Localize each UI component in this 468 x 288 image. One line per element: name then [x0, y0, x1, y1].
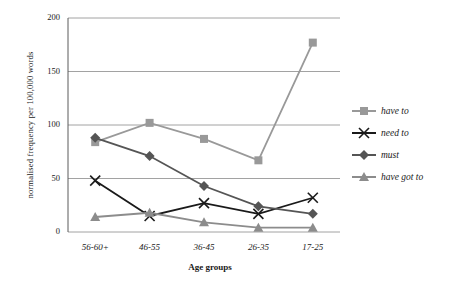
data-point: [145, 151, 155, 161]
data-point: [309, 39, 317, 47]
data-point: [199, 181, 209, 191]
data-point: [308, 193, 318, 203]
legend-label: must: [381, 150, 399, 160]
legend-marker-cross-icon: [352, 127, 376, 139]
data-point: [359, 150, 369, 160]
legend-marker-triangle-icon: [352, 171, 376, 183]
legend-label: have to: [381, 106, 409, 116]
legend-item: need to: [352, 122, 468, 144]
legend-label: need to: [381, 128, 409, 138]
data-point: [254, 156, 262, 164]
legend-item: must: [352, 144, 468, 166]
legend: have toneed tomusthave got to: [352, 100, 468, 188]
legend-item: have to: [352, 100, 468, 122]
data-point: [200, 135, 208, 143]
legend-marker-square-icon: [352, 105, 376, 117]
y-tick-label: 0: [34, 226, 60, 236]
legend-item: have got to: [352, 166, 468, 188]
data-point: [360, 107, 368, 115]
y-tick-label: 50: [34, 173, 60, 183]
data-point: [359, 128, 369, 138]
y-tick-label: 150: [34, 66, 60, 76]
legend-marker-diamond-icon: [352, 149, 376, 161]
x-axis-title: Age groups: [60, 262, 360, 272]
data-point: [359, 172, 369, 181]
line-chart: normalised frequency per 100,000 words A…: [0, 0, 468, 288]
data-point: [90, 176, 100, 186]
y-tick-label: 200: [34, 12, 60, 22]
data-point: [146, 119, 154, 127]
y-tick-label: 100: [34, 119, 60, 129]
data-point: [308, 209, 318, 219]
x-tick-label: 17-25: [278, 242, 348, 252]
legend-label: have got to: [381, 172, 423, 182]
